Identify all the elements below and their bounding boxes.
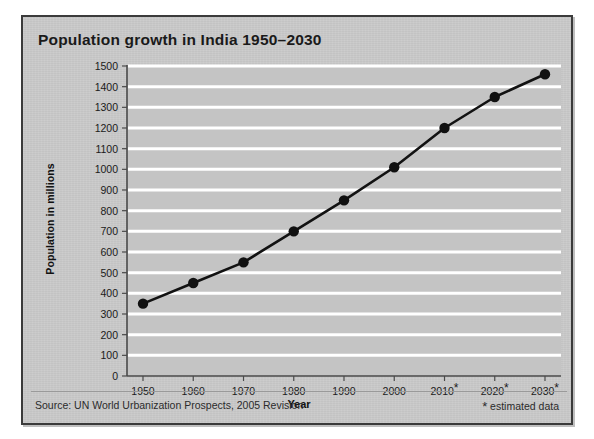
plot-background [127, 66, 561, 376]
estimated-data-label: estimated data [490, 400, 559, 412]
y-axis-tick-label: 1400 [95, 81, 119, 93]
x-axis-tick-label: 2010* [430, 381, 458, 397]
x-axis-tick-label: 2030* [531, 381, 559, 397]
footer-divider [31, 391, 567, 392]
data-point-marker [138, 298, 148, 308]
estimated-data-note: * estimated data [482, 399, 559, 414]
y-axis-tick-label: 1500 [95, 60, 119, 72]
y-axis-tick-label: 1300 [95, 101, 119, 113]
source-note: Source: UN World Urbanization Prospects,… [35, 399, 303, 411]
asterisk-icon: * [482, 399, 487, 414]
line-chart-svg: 0100200300400500600700800900100011001200… [23, 17, 575, 427]
screenshot-root: Population growth in India 1950–2030 Pop… [0, 0, 594, 439]
chart-card: Population growth in India 1950–2030 Pop… [21, 15, 573, 425]
x-axis-tick-label: 2020* [481, 381, 509, 397]
y-axis-tick-label: 100 [100, 349, 118, 361]
data-point-marker [439, 123, 449, 133]
data-point-marker [540, 69, 550, 79]
y-axis-tick-label: 1100 [95, 143, 118, 155]
data-point-marker [389, 162, 399, 172]
y-axis-tick-labels: 0100200300400500600700800900100011001200… [95, 60, 119, 382]
y-axis-tick-label: 0 [112, 370, 118, 382]
y-axis-tick-label: 700 [100, 225, 118, 237]
x-axis-tick-labels: 1950196019701980199020002010*2020*2030* [131, 381, 559, 397]
data-point-marker [289, 226, 299, 236]
y-axis-tick-label: 900 [100, 184, 118, 196]
y-axis-tick-label: 500 [100, 267, 118, 279]
y-axis-tick-label: 1200 [95, 122, 119, 134]
plot-area: 0100200300400500600700800900100011001200… [23, 17, 575, 427]
y-axis-tick-label: 300 [100, 308, 118, 320]
y-axis-tick-label: 800 [100, 205, 118, 217]
data-point-marker [188, 278, 198, 288]
data-point-marker [339, 195, 349, 205]
y-axis-tick-label: 200 [100, 329, 118, 341]
data-point-marker [490, 92, 500, 102]
y-axis-tick-label: 400 [100, 287, 118, 299]
data-point-marker [238, 257, 248, 267]
y-axis-tick-label: 1000 [95, 163, 119, 175]
y-axis-tick-label: 600 [100, 246, 118, 258]
